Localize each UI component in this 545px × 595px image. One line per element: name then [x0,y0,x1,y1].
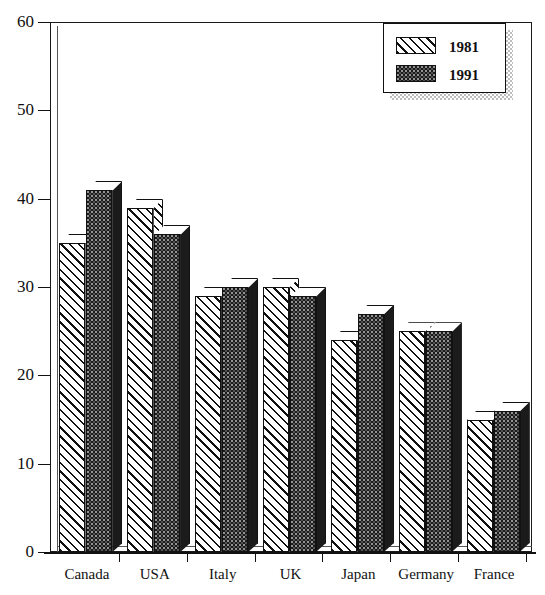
y-axis-tick [38,375,50,376]
y-axis-tick [38,287,50,288]
y-axis-tick-label: 30 [0,278,34,295]
bar-front-face [195,296,221,552]
x-axis-label-italy: Italy [209,566,237,583]
y-axis-tick [38,464,50,465]
bar-front-face [86,190,112,552]
bar-front-face [290,296,316,552]
axis-baseline [44,552,536,554]
legend-swatch-1981 [396,37,436,54]
x-axis-label-canada: Canada [64,566,109,583]
bar-front-face [358,314,384,553]
bar-front-face [426,331,452,552]
y-axis-tick [38,110,50,111]
legend-label-1981: 1981 [449,40,479,55]
bar-front-face [467,420,493,553]
x-axis-label-japan: Japan [341,566,375,583]
bar-front-face [59,243,85,552]
bar-front-face [331,340,357,552]
bar-chart: 0102030405060 CanadaUSAItalyUKJapanGerma… [0,0,545,595]
x-axis-tick [255,553,256,562]
y-axis-tick-label: 40 [0,190,34,207]
bar-front-face [222,287,248,552]
x-axis-label-germany: Germany [398,566,454,583]
y-axis-tick-label: 20 [0,366,34,383]
bar-side-face [520,402,530,552]
x-axis-label-france: France [474,566,515,583]
x-axis-tick [390,553,391,562]
bar-side-face [180,225,190,552]
bar-front-face [399,331,425,552]
x-axis-label-usa: USA [140,566,170,583]
x-axis-tick [187,553,188,562]
y-axis-tick-label: 50 [0,101,34,118]
x-axis-tick [458,553,459,562]
plot-wall-left [57,26,58,552]
x-axis-tick [322,553,323,562]
bar-front-face [263,287,289,552]
bar-front-face [494,411,520,552]
bar-side-face [248,278,258,552]
y-axis-tick [38,22,50,23]
bar-front-face [154,234,180,552]
x-axis-label-uk: UK [280,566,302,583]
y-axis-tick [38,199,50,200]
bar-front-face [127,208,153,553]
bar-side-face [112,181,122,552]
x-axis-tick [526,553,527,562]
legend-label-1991: 1991 [449,68,479,83]
y-axis-tick-label: 60 [0,13,34,30]
legend-swatch-1991 [396,65,436,82]
y-axis-tick-label: 10 [0,455,34,472]
bar-side-face [452,322,462,552]
legend-box [383,23,506,93]
x-axis-tick [119,553,120,562]
bar-side-face [316,287,326,552]
bar-side-face [384,305,394,553]
y-axis-tick-label: 0 [0,543,34,560]
